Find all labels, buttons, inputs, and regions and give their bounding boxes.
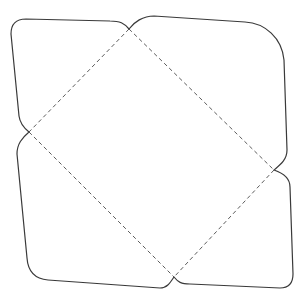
envelope-template-canvas [0,0,307,306]
fold-line-bottom-right [174,170,274,277]
fold-line-top-right [129,29,274,170]
envelope-cut-outline [11,16,293,288]
envelope-template-diagram [0,0,307,306]
fold-line-top-left [29,29,129,132]
fold-line-bottom-left [29,132,174,277]
